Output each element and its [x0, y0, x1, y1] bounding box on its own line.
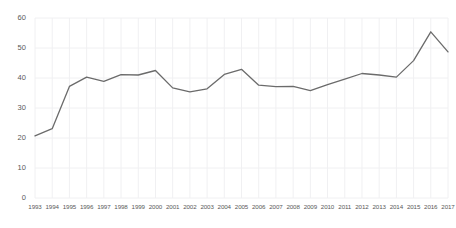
x-axis-tick-label: 2017	[438, 203, 456, 210]
y-axis-tick-label: 60	[4, 13, 26, 22]
y-axis-tick-label: 50	[4, 43, 26, 52]
y-axis-tick-label: 10	[4, 163, 26, 172]
chart-plot-area	[0, 0, 456, 228]
y-axis-tick-label: 30	[4, 103, 26, 112]
line-chart: 0102030405060 19931994199519961997199819…	[0, 0, 456, 228]
y-axis-tick-label: 20	[4, 133, 26, 142]
y-axis-tick-label: 0	[4, 193, 26, 202]
y-axis-tick-label: 40	[4, 73, 26, 82]
